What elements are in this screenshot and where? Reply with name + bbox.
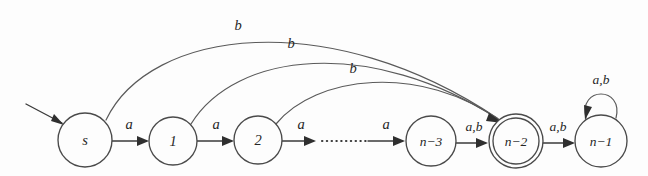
edge-label-a-2: a [212,116,219,132]
state-1-label: 1 [169,133,176,149]
automaton-canvas: b b b a,b a a a a [0,0,648,176]
edge-s-to-n-2 [106,42,497,120]
state-n-2-label: n−2 [505,134,528,149]
edge-2-to-dots [282,136,316,146]
start-arrow [26,104,64,125]
state-s-label: s [82,132,88,148]
state-n-2[interactable]: n−2 [489,114,543,168]
edge-1-to-2 [197,136,234,146]
edge-label-b-2: b [287,35,294,51]
edge-label-ab-1: a,b [466,119,483,134]
edge-dots-to-n-3 [368,136,405,146]
edge-n-2-to-n-1 [543,138,575,148]
edge-label-b-1: b [234,17,241,33]
state-n-3[interactable]: n−3 [406,116,456,166]
edge-s-to-1 [112,136,149,146]
edge-label-a-1: a [125,116,132,132]
state-n-1-label: n−1 [590,134,613,149]
state-1[interactable]: 1 [149,117,197,165]
edge-label-a-4: a [382,116,389,132]
edge-label-ab-2: a,b [550,119,567,134]
edge-label-b-3: b [349,60,356,76]
edge-n-3-to-n-2 [456,138,488,148]
automaton-figure: b b b a,b a a a a [0,0,648,176]
state-s[interactable]: s [58,113,112,167]
edge-1-to-n-2 [191,63,500,124]
state-n-1[interactable]: n−1 [575,115,627,167]
state-n-3-label: n−3 [420,134,443,149]
state-2[interactable]: 2 [234,116,282,164]
edge-label-self-loop: a,b [593,72,610,87]
edge-label-a-3: a [297,116,304,132]
state-2-label: 2 [254,132,261,148]
